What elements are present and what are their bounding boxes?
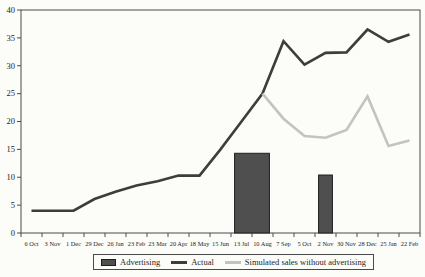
chart-page: 05101520253035406 Oct3 Nov1 Dec29 Dec26 … [0,0,425,277]
svg-text:35: 35 [7,33,16,43]
svg-text:20: 20 [7,116,16,126]
svg-text:23 Mar: 23 Mar [148,240,168,247]
chart-legend: Advertising Actual Simulated sales witho… [93,254,374,270]
simulated-line-swatch [225,261,241,264]
svg-text:5: 5 [11,200,15,210]
legend-item-advertising: Advertising [101,257,160,267]
svg-text:28 Dec: 28 Dec [358,240,376,247]
svg-text:3 Nov: 3 Nov [45,240,62,247]
svg-text:26 Jan: 26 Jan [107,240,124,247]
svg-text:7 Sep: 7 Sep [276,240,290,247]
legend-label-simulated: Simulated sales without advertising [245,257,366,267]
svg-text:23 Feb: 23 Feb [128,240,146,247]
svg-text:10: 10 [7,172,16,182]
svg-text:1 Dec: 1 Dec [66,240,81,247]
advertising-bar-swatch [101,259,116,266]
legend-item-actual: Actual [171,257,214,267]
svg-text:15: 15 [7,144,16,154]
svg-text:0: 0 [11,228,15,238]
svg-text:30 Nov: 30 Nov [337,240,357,247]
legend-label-advertising: Advertising [120,257,160,267]
sales-advertising-chart: 05101520253035406 Oct3 Nov1 Dec29 Dec26 … [0,0,425,277]
svg-text:6 Oct: 6 Oct [24,240,38,247]
actual-line-swatch [171,261,187,264]
svg-text:18 May: 18 May [190,240,211,247]
svg-text:10 Aug: 10 Aug [253,240,272,247]
svg-text:25 Jan: 25 Jan [380,240,397,247]
legend-item-simulated: Simulated sales without advertising [225,257,366,267]
svg-text:15 Jun: 15 Jun [212,240,230,247]
svg-text:13 Jul: 13 Jul [234,240,250,247]
svg-text:25: 25 [7,88,16,98]
svg-text:2 Nov: 2 Nov [318,240,335,247]
svg-text:5 Oct: 5 Oct [297,240,311,247]
chart-canvas: 05101520253035406 Oct3 Nov1 Dec29 Dec26 … [0,0,425,277]
svg-text:20 Apr: 20 Apr [170,240,188,247]
svg-text:30: 30 [7,61,16,71]
svg-text:40: 40 [7,5,16,15]
legend-label-actual: Actual [191,257,214,267]
svg-text:22 Feb: 22 Feb [401,240,419,247]
svg-text:29 Dec: 29 Dec [85,240,103,247]
